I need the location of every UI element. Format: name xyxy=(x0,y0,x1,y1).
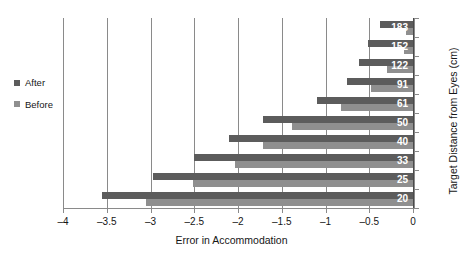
plot-area: 18315212291615040332520 xyxy=(63,18,413,208)
category-label-61: 61 xyxy=(397,97,413,111)
bar-group: 61 xyxy=(63,97,413,111)
bar-group: 91 xyxy=(63,78,413,92)
y-tick xyxy=(415,56,419,57)
y-tick xyxy=(415,208,419,209)
x-tick-label: –2 xyxy=(232,216,243,227)
category-label-122: 122 xyxy=(391,59,413,73)
x-tick-label: –4 xyxy=(57,216,68,227)
legend-swatch-icon xyxy=(14,101,20,107)
x-tick-label: 0 xyxy=(410,216,416,227)
x-tick-label: –1 xyxy=(320,216,331,227)
bar-after-50 xyxy=(263,116,414,123)
y-tick xyxy=(415,151,419,152)
bar-after-40 xyxy=(229,135,413,142)
bar-before-40 xyxy=(263,142,414,149)
bar-after-33 xyxy=(194,154,413,161)
x-axis-title: Error in Accommodation xyxy=(0,234,463,246)
x-tick xyxy=(151,208,152,213)
y-tick xyxy=(415,94,419,95)
category-label-20: 20 xyxy=(397,192,413,206)
legend-label: After xyxy=(25,78,45,88)
bar-group: 25 xyxy=(63,173,413,187)
x-tick xyxy=(369,208,370,213)
x-tick xyxy=(194,208,195,213)
bar-group: 40 xyxy=(63,135,413,149)
x-tick xyxy=(238,208,239,213)
bar-group: 122 xyxy=(63,59,413,73)
bars-container: 18315212291615040332520 xyxy=(63,18,413,208)
legend-swatch-icon xyxy=(14,80,20,86)
y-tick xyxy=(415,113,419,114)
x-tick xyxy=(107,208,108,213)
category-label-33: 33 xyxy=(397,154,413,168)
x-tick-label: –0.5 xyxy=(360,216,379,227)
y-tick xyxy=(415,18,419,19)
y-tick xyxy=(415,132,419,133)
bar-before-33 xyxy=(235,161,413,168)
bar-before-50 xyxy=(292,123,413,130)
category-label-152: 152 xyxy=(391,40,413,54)
category-label-25: 25 xyxy=(397,173,413,187)
bar-chart: AfterBefore 18315212291615040332520 –4–3… xyxy=(0,0,463,268)
x-tick-label: –2.5 xyxy=(185,216,204,227)
y-tick xyxy=(415,189,419,190)
y-tick xyxy=(415,170,419,171)
bar-before-25 xyxy=(193,180,414,187)
x-tick-label: –1.5 xyxy=(272,216,291,227)
bar-group: 50 xyxy=(63,116,413,130)
x-tick xyxy=(326,208,327,213)
legend-label: Before xyxy=(25,100,53,110)
bar-group: 183 xyxy=(63,21,413,35)
y-tick xyxy=(415,37,419,38)
y-tick xyxy=(415,75,419,76)
x-tick-label: –3 xyxy=(145,216,156,227)
bar-group: 33 xyxy=(63,154,413,168)
category-label-40: 40 xyxy=(397,135,413,149)
x-tick-label: –3.5 xyxy=(97,216,116,227)
category-label-91: 91 xyxy=(397,78,413,92)
y-axis-title: Target Distance from Eyes (cm) xyxy=(447,26,461,216)
bar-before-20 xyxy=(146,199,413,206)
x-tick xyxy=(63,208,64,213)
bar-after-25 xyxy=(153,173,413,180)
bar-group: 152 xyxy=(63,40,413,54)
bar-after-20 xyxy=(102,192,413,199)
category-label-183: 183 xyxy=(391,21,413,35)
bar-group: 20 xyxy=(63,192,413,206)
x-tick xyxy=(282,208,283,213)
category-label-50: 50 xyxy=(397,116,413,130)
